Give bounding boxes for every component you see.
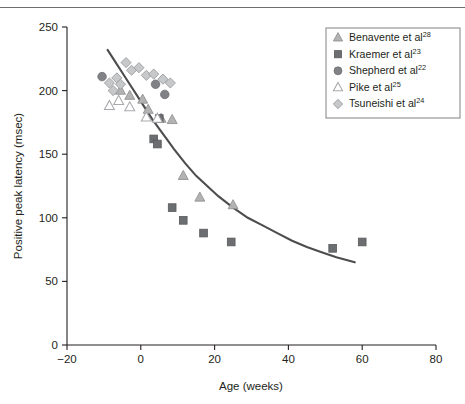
legend-label-benavente: Benavente et al28 [349, 30, 431, 43]
data-point [161, 90, 170, 99]
data-point [98, 72, 107, 81]
y-tick-label: 0 [52, 339, 58, 351]
x-axis-ticks: −20020406080 [57, 345, 442, 365]
data-point [178, 170, 188, 179]
series-kraemer-et-al [150, 115, 366, 252]
fitted-decay-curve [108, 50, 355, 262]
y-tick-label: 50 [45, 275, 58, 287]
data-point [104, 100, 114, 109]
data-point [200, 229, 208, 237]
data-point [151, 80, 160, 89]
x-tick-label: 80 [430, 353, 443, 365]
x-tick-label: 40 [282, 353, 295, 365]
data-point [125, 90, 135, 99]
legend-label-kraemer: Kraemer et al23 [349, 47, 421, 60]
legend-marker-kraemer [334, 51, 341, 58]
data-point [154, 140, 162, 148]
data-point [121, 58, 131, 68]
y-tick-label: 150 [39, 148, 58, 160]
data-point [179, 216, 187, 224]
legend-label-shepherd: Shepherd et al22 [349, 63, 426, 76]
x-tick-label: 60 [356, 353, 369, 365]
x-tick-label: −20 [57, 353, 77, 365]
plot-canvas: 050100150200250 −20020406080 Positive pe… [0, 0, 465, 404]
legend-marker-shepherd [334, 67, 342, 75]
legend-label-tsuneishi: Tsuneishi et al24 [349, 96, 424, 109]
y-tick-label: 100 [39, 212, 58, 224]
data-point [195, 192, 205, 201]
data-point [114, 95, 124, 104]
y-tick-label: 250 [39, 21, 58, 33]
x-tick-label: 20 [208, 353, 221, 365]
scatter-plot-figure: 050100150200250 −20020406080 Positive pe… [0, 0, 465, 404]
legend: Benavente et al28Kraemer et al23Shepherd… [326, 28, 460, 118]
data-point [227, 238, 235, 246]
data-point [149, 69, 159, 79]
data-point [329, 244, 337, 252]
data-point [125, 102, 135, 111]
x-tick-label: 0 [138, 353, 144, 365]
y-axis-ticks: 050100150200250 [39, 21, 67, 351]
y-tick-label: 200 [39, 85, 58, 97]
y-axis-title: Positive peak latency (msec) [12, 113, 24, 260]
data-point [358, 238, 366, 246]
data-point [168, 204, 176, 212]
data-point [167, 114, 177, 123]
x-axis-title: Age (weeks) [219, 380, 283, 392]
series-benavente-et-al [116, 85, 239, 209]
